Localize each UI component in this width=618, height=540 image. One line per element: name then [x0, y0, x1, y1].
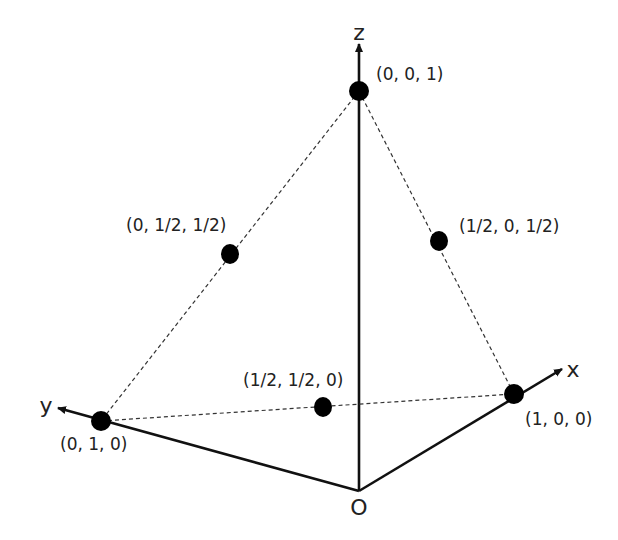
z-axis-label: z — [353, 20, 365, 45]
point-y-vertex — [91, 411, 111, 431]
label-z-vertex: (0, 0, 1) — [376, 64, 443, 84]
label-y-vertex: (0, 1, 0) — [60, 434, 127, 454]
point-xz-mid — [430, 231, 448, 251]
point-yz-mid — [221, 244, 239, 264]
edge-y-x — [101, 394, 514, 421]
diagram-canvas: z y x O (0, 0, 1) (0, 1, 0) (1, 0, 0) (0… — [0, 0, 618, 540]
label-yz-mid: (0, 1/2, 1/2) — [126, 215, 226, 235]
label-xy-mid: (1/2, 1/2, 0) — [243, 370, 343, 390]
label-x-vertex: (1, 0, 0) — [525, 409, 592, 429]
point-x-vertex — [504, 384, 524, 404]
coordinate-diagram: z y x O (0, 0, 1) (0, 1, 0) (1, 0, 0) (0… — [0, 0, 618, 540]
point-xy-mid — [314, 397, 332, 417]
origin-label: O — [350, 495, 367, 520]
label-xz-mid: (1/2, 0, 1/2) — [459, 216, 559, 236]
x-axis-label: x — [566, 357, 579, 382]
y-axis-label: y — [39, 393, 52, 418]
x-axis — [359, 369, 562, 491]
point-z-vertex — [349, 81, 369, 101]
